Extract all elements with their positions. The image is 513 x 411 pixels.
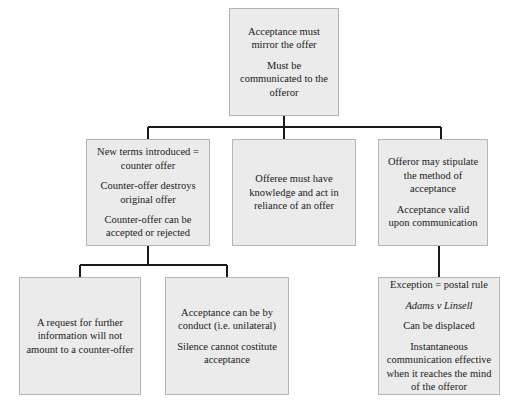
acceptance-mirror-text-1: Acceptance must mirror the offer — [236, 25, 332, 52]
acceptance-by-conduct-text-1: Acceptance can be by conduct (i.e. unila… — [172, 306, 282, 333]
counter-offer-node: New terms introduced = counter offer Cou… — [86, 139, 210, 246]
offeror-stipulate-node: Offeror may stipulate the method of acce… — [378, 139, 488, 246]
offeror-stipulate-text-1: Offeror may stipulate the method of acce… — [385, 155, 481, 195]
counter-offer-text-2: Counter-offer destroys original offer — [93, 179, 203, 206]
postal-rule-case-citation: Adams v Linsell — [385, 299, 493, 312]
request-information-node: A request for further information will n… — [19, 277, 141, 395]
counter-offer-text-3: Counter-offer can be accepted or rejecte… — [93, 213, 203, 240]
postal-rule-text-3: Can be displaced — [385, 319, 493, 332]
acceptance-by-conduct-node: Acceptance can be by conduct (i.e. unila… — [165, 277, 289, 395]
postal-rule-text-4: Instantaneous communication effective wh… — [385, 340, 493, 394]
offeror-stipulate-text-2: Acceptance valid upon communication — [385, 203, 481, 230]
acceptance-mirror-text-2: Must be communicated to the offeror — [236, 59, 332, 99]
request-information-text: A request for further information will n… — [26, 316, 134, 356]
postal-rule-node: Exception = postal rule Adams v Linsell … — [378, 277, 500, 395]
postal-rule-text-1: Exception = postal rule — [385, 278, 493, 291]
acceptance-mirror-node: Acceptance must mirror the offer Must be… — [229, 8, 339, 116]
offeree-knowledge-node: Offeree must have knowledge and act in r… — [232, 139, 356, 246]
offeree-knowledge-text: Offeree must have knowledge and act in r… — [239, 172, 349, 212]
acceptance-by-conduct-text-2: Silence cannot costitute acceptance — [172, 340, 282, 367]
counter-offer-text-1: New terms introduced = counter offer — [93, 145, 203, 172]
